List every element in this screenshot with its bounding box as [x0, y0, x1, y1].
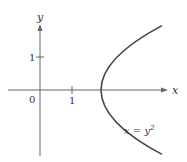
y-axis-label: y [36, 11, 44, 24]
x-tick-label-1: 1 [69, 95, 75, 106]
curve-equation-superscript: 2 [149, 124, 155, 132]
curve-equation-label: x = y2 [124, 124, 155, 136]
parabola-plot: y x 0 1 1 x = y2 [0, 0, 187, 162]
x-axis-arrow-icon [161, 88, 168, 93]
y-tick-label-1: 1 [29, 52, 35, 63]
y-axis-arrow-icon [38, 24, 43, 31]
origin-label: 0 [29, 94, 35, 105]
x-axis-label: x [172, 84, 179, 97]
curve-equation-text: x = y [124, 125, 150, 136]
